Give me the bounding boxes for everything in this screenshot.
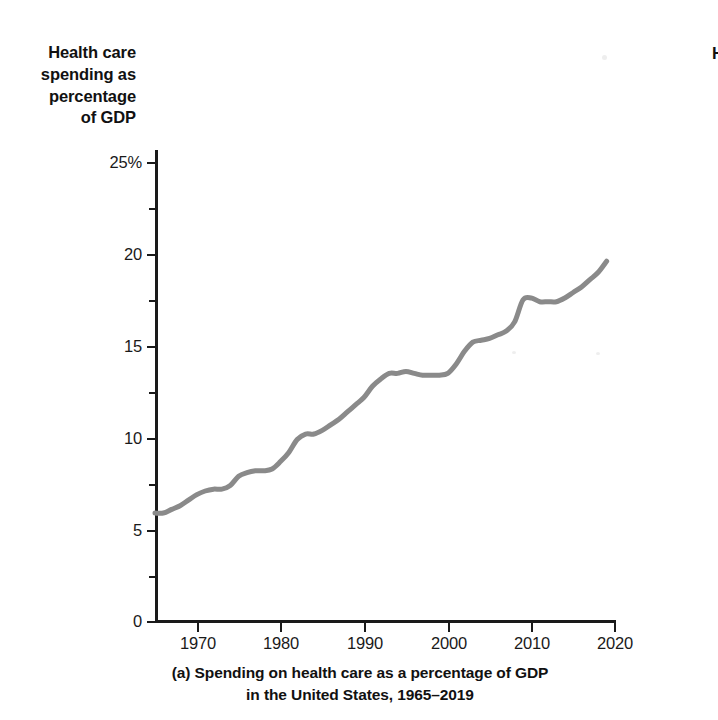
figure-panel-a: H Health care spending as percentage of … <box>0 0 718 720</box>
figure-caption-line-2: in the United States, 1965–2019 <box>120 684 600 706</box>
figure-caption: (a) Spending on health care as a percent… <box>120 662 600 706</box>
chart-plot-svg <box>0 0 718 720</box>
series-line-health-spending <box>155 261 607 513</box>
figure-caption-line-1: (a) Spending on health care as a percent… <box>120 662 600 684</box>
